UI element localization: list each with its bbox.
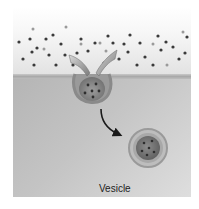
membrane-invagination xyxy=(74,74,111,103)
curved-arrow xyxy=(101,109,118,134)
endocytosis-diagram: Vesicle xyxy=(13,7,191,197)
diagram-graphics xyxy=(13,7,191,197)
vesicle xyxy=(129,129,167,167)
vesicle-label: Vesicle xyxy=(99,183,131,194)
